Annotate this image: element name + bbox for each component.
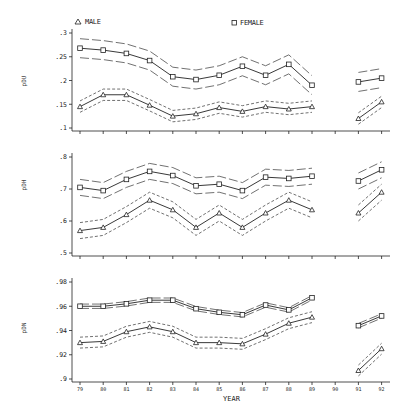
confidence-band-upper	[358, 69, 381, 73]
square-marker	[287, 176, 292, 181]
series-female	[78, 162, 384, 199]
triangle-marker	[263, 332, 268, 337]
y-axis-label: pDH	[20, 179, 28, 190]
series-line	[358, 192, 381, 213]
square-marker	[287, 308, 292, 313]
confidence-band-lower	[358, 88, 381, 92]
y-tick-label: .96	[55, 303, 67, 311]
square-marker	[263, 303, 268, 308]
confidence-band-upper	[80, 163, 312, 182]
square-marker	[147, 169, 152, 174]
square-marker	[171, 173, 176, 178]
square-marker	[194, 184, 199, 189]
series-line	[358, 349, 381, 371]
triangle-marker	[217, 211, 222, 216]
square-marker	[263, 175, 268, 180]
square-marker	[78, 185, 83, 190]
square-marker	[379, 76, 384, 81]
triangle-marker	[286, 198, 291, 203]
square-marker	[240, 312, 245, 317]
square-marker	[101, 304, 106, 309]
square-marker	[124, 177, 129, 182]
x-tick-label: 83	[170, 386, 176, 392]
panel-pdh: .8.7.6.5pDH	[20, 153, 390, 259]
y-tick-label: .3	[59, 29, 67, 37]
y-tick-label: .6	[59, 217, 67, 225]
y-axis-label: pDU	[20, 75, 28, 86]
series-male	[78, 184, 385, 238]
triangle-marker	[310, 315, 315, 320]
square-marker	[101, 188, 106, 193]
square-marker	[310, 174, 315, 179]
square-marker	[217, 310, 222, 315]
y-tick-label: .25	[55, 53, 67, 61]
square-marker	[356, 323, 361, 328]
square-marker	[379, 314, 384, 319]
confidence-band-upper	[80, 89, 312, 110]
square-marker	[217, 182, 222, 187]
x-tick-label: 86	[239, 386, 245, 392]
triangle-marker	[217, 105, 222, 110]
triangle-marker	[147, 324, 152, 329]
y-tick-label: .1	[59, 124, 67, 132]
x-tick-label: 90	[332, 386, 338, 392]
square-marker	[124, 302, 129, 307]
series-line	[358, 78, 381, 82]
y-tick-label: .8	[59, 153, 67, 161]
square-marker	[310, 83, 315, 88]
series-female	[78, 295, 384, 327]
y-tick-label: .7	[59, 185, 67, 193]
triangle-marker	[379, 346, 384, 351]
square-marker	[124, 51, 129, 56]
x-tick-label: 85	[216, 386, 222, 392]
x-tick-label: 89	[309, 386, 315, 392]
square-marker	[171, 298, 176, 303]
square-marker	[240, 64, 245, 69]
confidence-band-lower	[358, 318, 381, 328]
legend-item-female: FEMALE	[232, 19, 264, 27]
confidence-band-upper	[80, 192, 312, 222]
y-tick-label: .98	[55, 278, 67, 286]
legend-male-label: MALE	[85, 18, 101, 26]
square-marker	[194, 77, 199, 82]
triangle-marker	[240, 225, 245, 230]
x-tick-label: 81	[123, 386, 129, 392]
triangle-marker	[356, 116, 361, 121]
y-tick-label: .15	[55, 101, 67, 109]
x-tick-label: 84	[193, 386, 199, 392]
x-tick-label: 87	[263, 386, 269, 392]
square-marker	[240, 188, 245, 193]
y-tick-label: .94	[55, 327, 67, 335]
y-tick-label: .2	[59, 77, 67, 85]
legend-female-label: FEMALE	[240, 19, 264, 27]
confidence-band-lower	[80, 323, 312, 350]
confidence-band-lower	[358, 200, 381, 221]
triangle-marker	[78, 104, 83, 109]
square-marker	[379, 168, 384, 173]
confidence-band-upper	[358, 343, 381, 365]
x-tick-label: 82	[147, 386, 153, 392]
triangle-icon	[75, 19, 81, 24]
triangle-marker	[124, 212, 129, 217]
square-marker	[171, 74, 176, 79]
square-marker	[78, 46, 83, 51]
triangle-marker	[263, 211, 268, 216]
square-icon	[232, 21, 237, 26]
x-tick-label: 80	[100, 386, 106, 392]
chart-figure: MALE FEMALE .3.25.2.15.1pDU.8.7.6.5pDH.9…	[0, 0, 410, 414]
square-marker	[287, 62, 292, 67]
series-female	[78, 39, 384, 95]
panel-pdn: .98.96.94.92.979808182838485868788899091…	[20, 278, 390, 392]
legend: MALE FEMALE	[75, 18, 264, 27]
x-axis-label: YEAR	[223, 395, 241, 403]
confidence-band-lower	[358, 354, 381, 376]
legend-item-male: MALE	[75, 18, 101, 26]
confidence-band-upper	[358, 314, 381, 324]
triangle-marker	[101, 225, 106, 230]
confidence-band-lower	[80, 179, 312, 198]
square-marker	[217, 73, 222, 78]
y-axis-label: pDN	[20, 322, 28, 333]
series-male	[78, 312, 385, 376]
square-marker	[356, 80, 361, 85]
y-tick-label: .5	[59, 249, 67, 257]
